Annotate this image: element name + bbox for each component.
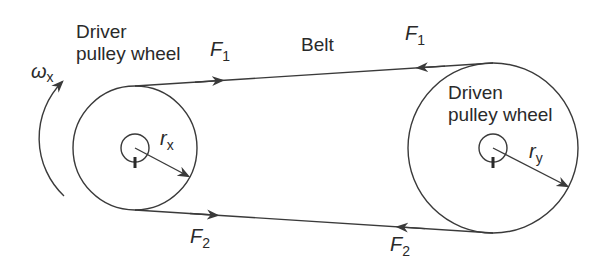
belt-label: Belt	[301, 34, 334, 55]
driver-pulley	[73, 86, 197, 210]
omega-x-label: ωx	[31, 60, 54, 85]
f2-left-arrow-icon	[190, 214, 217, 216]
driver-label-line2: pulley wheel	[76, 43, 181, 64]
belt-drive-diagram: Driver pulley wheel Driven pulley wheel …	[0, 0, 605, 275]
f1-right-arrow-icon	[418, 66, 445, 68]
f2-left-label: F2	[190, 225, 210, 251]
f1-right-label: F1	[405, 22, 425, 48]
driven-label-line1: Driven	[448, 82, 503, 103]
radius-rx-arrow	[135, 148, 188, 176]
f2-right-arrow-icon	[398, 227, 425, 229]
rx-label: rx	[160, 127, 174, 153]
f2-right-label: F2	[390, 233, 410, 259]
f1-left-arrow-icon	[195, 80, 222, 82]
ry-label: ry	[529, 140, 543, 166]
driven-label-line2: pulley wheel	[448, 104, 553, 125]
driver-label-line1: Driver	[76, 21, 127, 42]
f1-left-label: F1	[210, 38, 230, 64]
omega-rotation-arrow-icon	[39, 82, 64, 196]
